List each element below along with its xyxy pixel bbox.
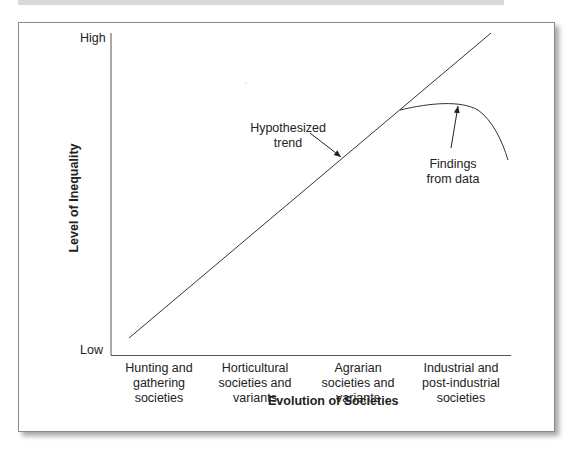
hypothesized-trend-label: Hypothesized trend <box>248 121 328 151</box>
findings-arrow <box>451 106 458 148</box>
x-category-industrial: Industrial and post-industrial societies <box>411 361 511 406</box>
dot-artifact <box>245 82 246 83</box>
y-axis-title: Level of Inequality <box>67 143 81 252</box>
y-tick-high: High <box>80 31 106 45</box>
findings-label: Findings from data <box>413 157 493 187</box>
x-category-hunting: Hunting and gathering societies <box>109 361 209 406</box>
y-tick-low: Low <box>80 343 103 357</box>
x-axis-title: Evolution of Societies <box>268 394 399 408</box>
